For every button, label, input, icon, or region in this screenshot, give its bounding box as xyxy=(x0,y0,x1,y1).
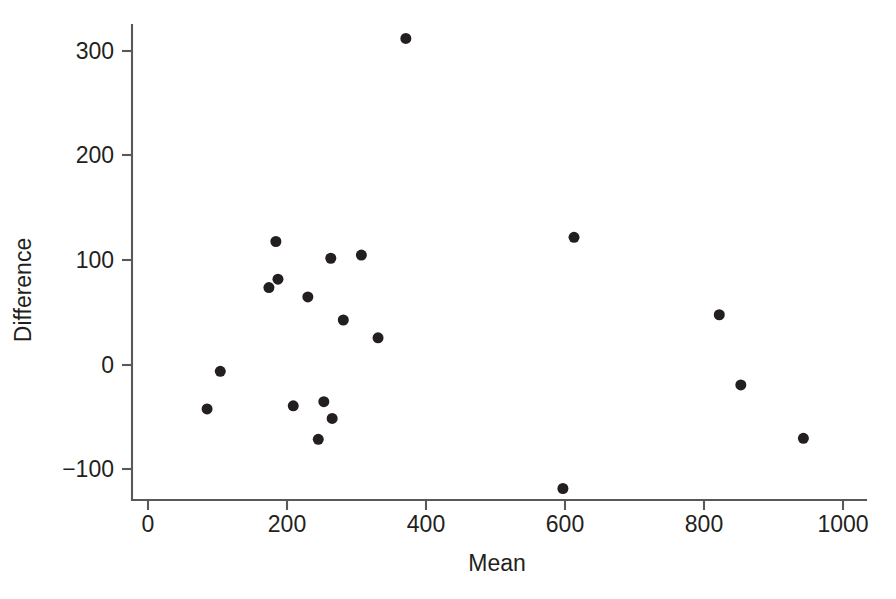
x-tick-label-400: 400 xyxy=(407,511,445,537)
data-point xyxy=(313,434,324,445)
y-tick-label-100: 100 xyxy=(76,247,114,273)
data-point xyxy=(400,33,411,44)
x-tick-label-1000: 1000 xyxy=(817,511,868,537)
data-point xyxy=(318,396,329,407)
data-point xyxy=(202,403,213,414)
y-axis-tick-labels: 300 200 100 0 −100 xyxy=(62,38,114,482)
y-axis-ticks xyxy=(122,51,132,469)
data-point xyxy=(288,400,299,411)
bland-altman-scatter-figure: 300 200 100 0 −100 0 200 400 600 800 100… xyxy=(0,0,896,599)
data-point xyxy=(302,291,313,302)
x-tick-label-600: 600 xyxy=(546,511,584,537)
x-tick-label-200: 200 xyxy=(268,511,306,537)
data-point xyxy=(338,314,349,325)
data-point xyxy=(557,483,568,494)
x-tick-label-0: 0 xyxy=(142,511,155,537)
y-axis-title: Difference xyxy=(10,238,36,342)
y-tick-label-300: 300 xyxy=(76,38,114,64)
y-tick-label-200: 200 xyxy=(76,142,114,168)
data-point xyxy=(327,413,338,424)
data-point xyxy=(798,433,809,444)
data-point xyxy=(356,250,367,261)
data-point xyxy=(325,253,336,264)
y-tick-label-neg100: −100 xyxy=(62,456,114,482)
data-point xyxy=(215,366,226,377)
x-axis-title: Mean xyxy=(468,550,526,576)
data-point xyxy=(735,379,746,390)
data-point xyxy=(263,282,274,293)
data-point xyxy=(714,309,725,320)
scatter-plot-canvas: 300 200 100 0 −100 0 200 400 600 800 100… xyxy=(0,0,896,599)
data-point xyxy=(373,332,384,343)
data-point xyxy=(270,236,281,247)
scatter-points-layer xyxy=(202,33,809,494)
y-tick-label-0: 0 xyxy=(101,352,114,378)
data-point xyxy=(272,274,283,285)
x-axis-tick-labels: 0 200 400 600 800 1000 xyxy=(142,511,869,537)
data-point xyxy=(569,232,580,243)
x-axis-ticks xyxy=(148,500,843,510)
x-tick-label-800: 800 xyxy=(685,511,723,537)
